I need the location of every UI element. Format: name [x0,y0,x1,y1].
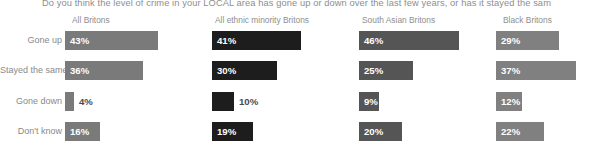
bar-group: 46% [359,31,499,50]
bar-group: 41% [212,31,341,50]
bar-group: 22% [496,122,584,141]
bar-value-label: 37% [501,61,520,80]
bar-value-label: 4% [79,92,93,111]
bar-value-label: 9% [364,92,378,111]
bar-value-label: 12% [501,92,520,111]
bar-value-label: 20% [364,122,383,141]
category-label-gone-up: Gone up [0,35,62,46]
bar-value-label: 19% [217,122,236,141]
bar-group: 30% [212,61,317,80]
bar [65,92,74,111]
column-header-all-ethnic-minority-britons: All ethnic minority Britons [215,15,309,26]
column-header-south-asian-britons: South Asian Britons [362,15,435,26]
bar-group: 29% [496,31,594,50]
bar-group: 36% [65,61,183,80]
bar-group: 25% [359,61,453,80]
bar [212,92,234,111]
column-header-all-britons: All Britons [72,15,110,26]
bar-group: 9% [359,92,419,111]
bar-value-label: 36% [70,61,89,80]
bar-group: 19% [212,122,293,141]
bar-group: 16% [65,122,140,141]
bar-value-label: 22% [501,122,520,141]
bar-value-label: 16% [70,122,89,141]
bar-group: 12% [496,92,562,111]
bar-value-label: 30% [217,61,236,80]
bar-value-label: 10% [239,92,258,111]
bar-group: 10% [212,92,274,111]
category-label-dont-know: Don't know [0,126,62,137]
chart-title: Do you think the level of crime in your … [42,0,594,9]
bar-value-label: 25% [364,61,383,80]
bar-value-label: 43% [70,31,89,50]
bar-group: 37% [496,61,594,80]
crime-perception-bar-chart: Do you think the level of crime in your … [0,0,594,153]
category-label-gone-down: Gone down [0,96,62,107]
bar-group: 20% [359,122,442,141]
category-axis: Gone up Stayed the same Gone down Don't … [0,0,62,153]
bar-value-label: 41% [217,31,236,50]
bar-group: 4% [65,92,114,111]
category-label-stayed-the-same: Stayed the same [0,65,62,76]
bar-value-label: 29% [501,31,520,50]
column-header-black-britons: Black Britons [503,15,552,26]
bar-group: 43% [65,31,198,50]
bar-value-label: 46% [364,31,383,50]
